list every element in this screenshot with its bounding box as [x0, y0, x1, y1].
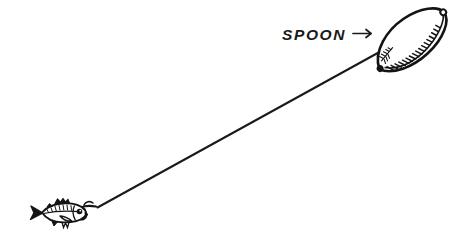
spoon-label-text: SPOON	[282, 26, 346, 43]
fish-eye-highlight	[79, 210, 81, 212]
fish-dorsal-fin	[55, 199, 70, 204]
fish-eye	[77, 209, 83, 215]
illustration-canvas: SPOON	[0, 0, 458, 247]
line-art-drawing: SPOON	[0, 0, 458, 247]
